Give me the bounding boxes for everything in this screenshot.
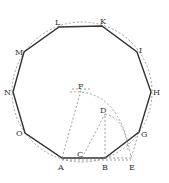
label-F: F xyxy=(78,82,84,91)
label-L: L xyxy=(55,18,61,27)
label-K: K xyxy=(100,17,107,26)
label-B: B xyxy=(102,163,108,172)
label-I: I xyxy=(139,46,142,55)
line-CD xyxy=(82,114,105,158)
arc-F-to-E xyxy=(70,92,131,158)
line-AF xyxy=(62,90,81,158)
label-O: O xyxy=(16,129,23,138)
label-C: C xyxy=(77,150,83,159)
label-M: M xyxy=(15,48,23,57)
label-A: A xyxy=(57,163,64,172)
decagon-outline xyxy=(13,26,151,158)
label-G: G xyxy=(141,130,147,139)
decagon-diagram: A B C D E F G H I K L M N O xyxy=(0,0,169,183)
label-E: E xyxy=(129,163,135,172)
label-H: H xyxy=(153,88,160,97)
label-D: D xyxy=(100,106,106,115)
circumcircle xyxy=(12,22,152,162)
label-N: N xyxy=(4,88,11,97)
